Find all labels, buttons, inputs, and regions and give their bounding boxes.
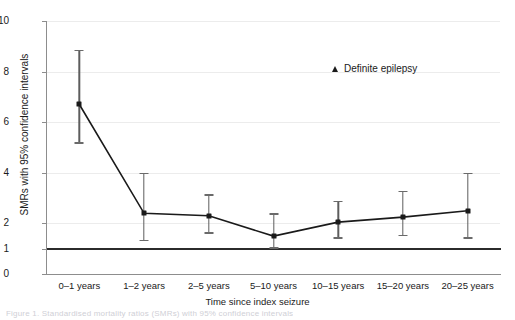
error-bar-cap-lower	[269, 247, 278, 248]
x-axis-tick-label: 15–20 years	[377, 281, 429, 291]
error-bar-cap-upper	[140, 173, 149, 174]
error-bar	[273, 213, 274, 247]
x-axis-tick-label: 1–2 years	[123, 281, 165, 291]
error-bar-cap-lower	[334, 237, 343, 238]
error-bar-cap-lower	[140, 240, 149, 241]
error-bar	[402, 191, 403, 235]
y-axis-tick-label: 6	[3, 117, 9, 127]
data-point-marker	[400, 215, 405, 220]
x-axis-title: Time since index seizure	[0, 296, 515, 307]
x-axis-tick-label: 10–15 years	[312, 281, 364, 291]
data-point-marker	[336, 220, 341, 225]
error-bar-cap-upper	[269, 213, 278, 214]
error-bar-cap-upper	[75, 50, 84, 51]
y-axis-tick-label: 2	[3, 218, 9, 228]
legend-label-definite-epilepsy: Definite epilepsy	[344, 63, 417, 74]
error-bar	[79, 50, 80, 142]
gridline	[47, 21, 500, 22]
error-bar-cap-upper	[204, 194, 213, 195]
data-point-marker	[465, 208, 470, 213]
gridline	[47, 72, 500, 73]
x-axis-tick-label: 20–25 years	[441, 281, 493, 291]
gridline	[47, 173, 500, 174]
x-axis-tick-label: 0–1 years	[58, 281, 100, 291]
error-bar	[467, 173, 468, 238]
error-bar-cap-lower	[463, 237, 472, 238]
y-axis-tick-label: 0	[3, 269, 9, 279]
y-axis-title: SMRs with 95% confidence intervals	[19, 35, 30, 235]
plot-area	[47, 21, 500, 274]
y-axis-tick-label: 4	[3, 168, 9, 178]
figure-caption: Figure 1. Standardised mortality ratios …	[6, 309, 293, 320]
error-bar-cap-upper	[463, 173, 472, 174]
error-bar-cap-lower	[204, 232, 213, 233]
error-bar-cap-lower	[398, 235, 407, 236]
error-bar-cap-upper	[334, 201, 343, 202]
y-axis-tick-label: 1	[3, 244, 9, 254]
y-axis-tick-label: 10	[0, 16, 9, 26]
error-bar	[143, 173, 144, 240]
data-point-marker	[271, 234, 276, 239]
error-bar-cap-upper	[398, 191, 407, 192]
chart-legend: Definite epilepsy	[332, 63, 417, 74]
data-point-marker	[206, 213, 211, 218]
data-point-marker	[77, 102, 82, 107]
data-point-marker	[142, 211, 147, 216]
figure-container: SMRs with 95% confidence intervals 01246…	[0, 0, 515, 320]
x-axis-line	[46, 274, 501, 275]
y-axis-tick-label: 8	[3, 67, 9, 77]
triangle-icon	[332, 66, 338, 72]
gridline	[47, 122, 500, 123]
x-axis-tick-label: 5–10 years	[250, 281, 297, 291]
y-axis-tick-mark	[42, 274, 47, 275]
x-axis-tick-label: 2–5 years	[188, 281, 230, 291]
error-bar-cap-lower	[75, 142, 84, 143]
